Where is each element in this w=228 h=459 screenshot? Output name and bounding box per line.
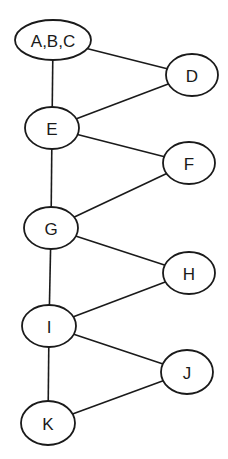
nodes-layer: A,B,CDEFGHIJK	[15, 20, 218, 445]
node-f: F	[163, 142, 215, 184]
graph-diagram: A,B,CDEFGHIJK	[0, 0, 228, 459]
node-label: H	[183, 265, 195, 284]
node-j: J	[161, 350, 213, 394]
node-label: E	[46, 120, 57, 139]
node-e: E	[25, 107, 79, 149]
node-h: H	[163, 252, 215, 294]
node-i: I	[22, 305, 76, 347]
node-label: D	[186, 67, 198, 86]
node-k: K	[21, 401, 75, 445]
node-g: G	[24, 207, 78, 249]
node-label: I	[47, 318, 52, 337]
node-label: K	[42, 415, 54, 434]
node-abc: A,B,C	[15, 20, 91, 60]
node-label: G	[44, 220, 57, 239]
node-label: F	[184, 155, 194, 174]
node-label: A,B,C	[31, 32, 75, 51]
graph-svg: A,B,CDEFGHIJK	[0, 0, 228, 459]
node-label: J	[183, 364, 192, 383]
node-d: D	[166, 54, 218, 96]
